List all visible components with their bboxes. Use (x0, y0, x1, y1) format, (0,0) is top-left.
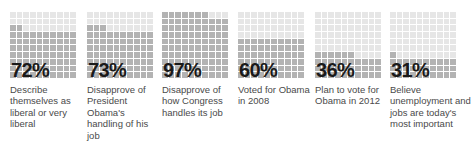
waffle-cell (292, 39, 298, 45)
waffle-cell (238, 19, 244, 25)
waffle-cell (292, 45, 298, 51)
waffle-cell (298, 66, 304, 72)
waffle-cell (322, 25, 328, 31)
waffle-cell (94, 39, 100, 45)
waffle-cell (64, 45, 70, 51)
waffle-cell (251, 32, 257, 38)
waffle-cell (50, 59, 56, 65)
waffle-cell (403, 19, 409, 25)
waffle-cell (30, 32, 36, 38)
waffle-cell (10, 19, 16, 25)
waffle-cell (397, 39, 403, 45)
waffle-cell (285, 45, 291, 51)
stat-value: 97% (163, 60, 201, 80)
waffle-cell (375, 52, 381, 58)
waffle-cell (57, 39, 63, 45)
waffle-cell (355, 12, 361, 18)
waffle-cell (375, 32, 381, 38)
waffle-cell (417, 45, 423, 51)
waffle-cell (141, 72, 147, 78)
waffle-cell (17, 52, 23, 58)
waffle-cell (147, 66, 153, 72)
waffle-cell (390, 19, 396, 25)
waffle-cell (369, 72, 375, 78)
waffle-cell (50, 32, 56, 38)
waffle-cell (437, 39, 443, 45)
waffle-cell (375, 59, 381, 65)
waffle-cell (107, 45, 113, 51)
waffle-cell (265, 39, 271, 45)
waffle-cell (292, 66, 298, 72)
waffle-cell (444, 19, 450, 25)
waffle-cell (278, 52, 284, 58)
waffle-cell (292, 72, 298, 78)
waffle-cell (342, 25, 348, 31)
waffle-cell (437, 12, 443, 18)
waffle-cell (87, 39, 93, 45)
waffle-cell (37, 52, 43, 58)
waffle-cell (362, 32, 368, 38)
waffle-cell (450, 39, 456, 45)
waffle-cell (70, 39, 76, 45)
waffle-cell (195, 39, 201, 45)
waffle-cell (222, 45, 228, 51)
waffle-cell (285, 12, 291, 18)
waffle-cell (410, 52, 416, 58)
waffle-cell (423, 12, 429, 18)
waffle-cell (169, 25, 175, 31)
waffle-cell (162, 52, 168, 58)
waffle-cell (30, 25, 36, 31)
waffle-cell (100, 32, 106, 38)
waffle-cell (43, 45, 49, 51)
waffle-cell (64, 52, 70, 58)
waffle-cell (430, 19, 436, 25)
waffle-cell (369, 25, 375, 31)
waffle-cell (298, 19, 304, 25)
waffle-cell (87, 19, 93, 25)
waffle-cell (444, 12, 450, 18)
waffle-cell (238, 12, 244, 18)
waffle-cell (278, 12, 284, 18)
stat-caption: Describe themselves as liberal or very l… (10, 84, 82, 130)
waffle-cell (147, 72, 153, 78)
waffle-cell (100, 52, 106, 58)
waffle-cell (335, 39, 341, 45)
waffle-cell (43, 12, 49, 18)
waffle-cell (369, 19, 375, 25)
waffle-cell (403, 39, 409, 45)
stat-value: 31% (391, 60, 429, 80)
waffle-cell (390, 45, 396, 51)
waffle-cell (430, 52, 436, 58)
waffle-cell (322, 32, 328, 38)
waffle-cell (390, 12, 396, 18)
stat-block: 73% (87, 12, 157, 78)
waffle-cell (189, 25, 195, 31)
waffle-cell (322, 45, 328, 51)
waffle-cell (195, 12, 201, 18)
waffle-cell (147, 12, 153, 18)
waffle-cell (375, 19, 381, 25)
waffle-cell (437, 19, 443, 25)
waffle-cell (120, 52, 126, 58)
waffle-cell (162, 45, 168, 51)
waffle-cell (315, 39, 321, 45)
waffle-cell (107, 12, 113, 18)
waffle-cell (238, 39, 244, 45)
waffle-cell (94, 25, 100, 31)
waffle-cell (298, 32, 304, 38)
waffle-cell (169, 32, 175, 38)
waffle-cell (175, 12, 181, 18)
waffle-cell (127, 19, 133, 25)
waffle-cell (298, 25, 304, 31)
waffle-cell (70, 32, 76, 38)
waffle-cell (423, 19, 429, 25)
waffle-cell (450, 59, 456, 65)
waffle-cell (355, 45, 361, 51)
waffle-cell (397, 32, 403, 38)
waffle-cell (175, 39, 181, 45)
waffle-cell (127, 59, 133, 65)
waffle-cell (202, 32, 208, 38)
waffle-cell (322, 39, 328, 45)
waffle-cell (298, 72, 304, 78)
waffle-cell (410, 25, 416, 31)
